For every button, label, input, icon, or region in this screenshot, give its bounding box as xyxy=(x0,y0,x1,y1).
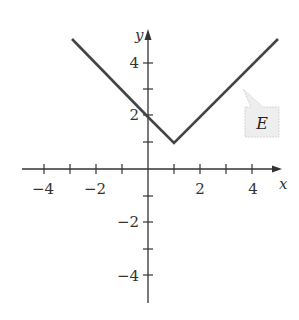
y-tick-label-minus-2: −2 xyxy=(117,213,139,231)
x-axis xyxy=(22,164,282,174)
x-tick-label-2: 2 xyxy=(195,180,205,198)
callout-e: E xyxy=(243,89,279,137)
x-tick-label-minus-2: −2 xyxy=(84,180,106,198)
y-tick-label-4: 4 xyxy=(129,54,139,72)
x-tick-label-minus-4: −4 xyxy=(32,180,54,198)
graph-canvas: −4 −2 2 4 4 2 −2 −4 x y E xyxy=(0,0,299,320)
y-tick-label-2: 2 xyxy=(129,106,139,124)
y-axis xyxy=(143,29,153,303)
callout-label-e: E xyxy=(255,114,268,133)
x-axis-arrow-icon xyxy=(272,166,282,173)
y-axis-label: y xyxy=(134,26,144,44)
y-tick-label-minus-4: −4 xyxy=(117,267,139,285)
y-axis-arrow-icon xyxy=(145,29,152,40)
x-axis-label: x xyxy=(279,175,288,193)
x-tick-label-4: 4 xyxy=(248,180,258,198)
